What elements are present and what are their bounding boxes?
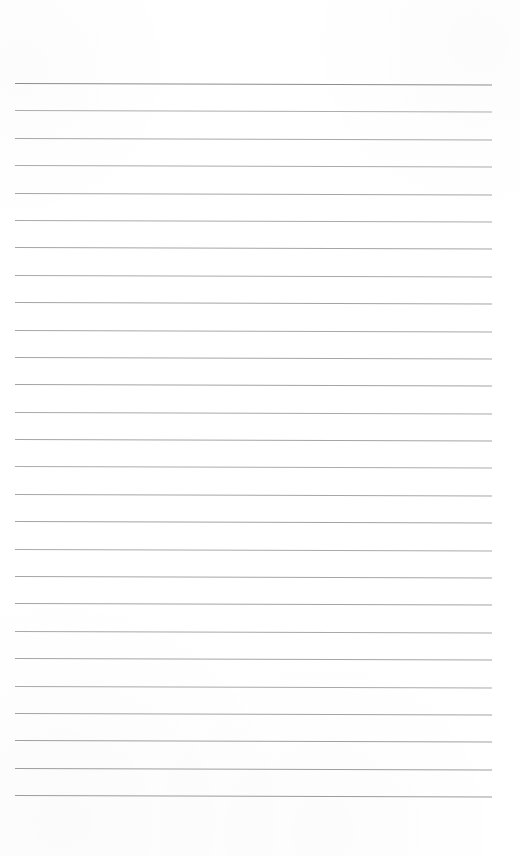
lined-paper-page: [0, 0, 520, 856]
rule-line: [15, 795, 492, 798]
writing-area[interactable]: [15, 83, 492, 795]
